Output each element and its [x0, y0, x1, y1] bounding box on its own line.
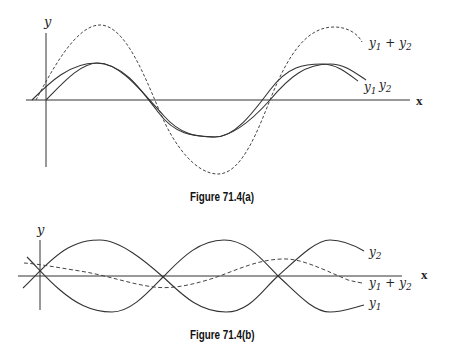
figure-a-label-y2: y2 — [378, 78, 392, 94]
figure-b-label-y2: y2 — [368, 245, 382, 261]
figure-a-plot: y x y1 + y2 y1 y2 — [26, 14, 423, 174]
figure-71-4-a: y x y1 + y2 y1 y2 y x y2 — [0, 0, 449, 356]
figure-a-label-sum: y1 + y2 — [368, 36, 412, 52]
figure-b-x-label: x — [421, 267, 428, 282]
figure-a-label-y1: y1 — [363, 80, 377, 96]
figure-a-y-label: y — [43, 14, 52, 29]
figure-b-plot: y x y2 y1 + y2 y1 — [18, 222, 428, 312]
figure-b-label-sum: y1 + y2 — [368, 276, 412, 292]
figure-b-curve-sum — [24, 259, 362, 288]
figure-b-label-y1: y1 — [368, 296, 382, 312]
figure-b-y-label: y — [36, 222, 45, 237]
figure-a-caption: Figure 71.4(a) — [190, 190, 254, 204]
figure-b-caption: Figure 71.4(b) — [190, 328, 255, 342]
figure-a-x-label: x — [416, 93, 423, 108]
